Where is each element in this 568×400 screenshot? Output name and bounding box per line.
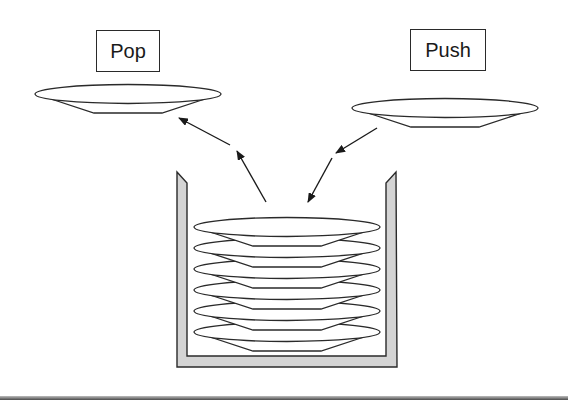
pop-arrow-icon (179, 118, 266, 202)
stack-diagram: Pop Push (0, 0, 568, 400)
popped-plate (35, 85, 221, 114)
pushed-plate (352, 99, 538, 128)
page-bottom-rule (0, 396, 568, 400)
pop-label: Pop (96, 30, 160, 72)
plate-stack (194, 218, 380, 352)
push-arrow-icon (308, 128, 377, 202)
push-label: Push (410, 29, 486, 71)
